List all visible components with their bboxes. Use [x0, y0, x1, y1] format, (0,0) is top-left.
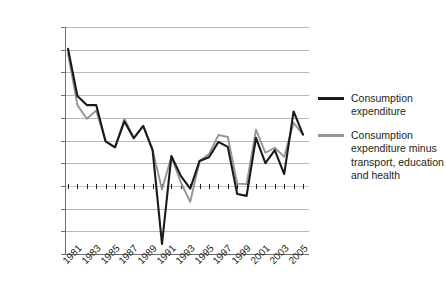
legend-entry: Consumption expenditure minus transport,… — [318, 129, 446, 182]
series-line — [68, 53, 303, 201]
line-chart: 35.00%30.00%25.00%20.00%15.00%10.00%5.00… — [0, 0, 446, 292]
legend-label: Consumption expenditure minus transport,… — [351, 129, 446, 182]
legend-swatch-consumption-expenditure-minus — [318, 134, 344, 137]
chart-legend: Consumption expenditureConsumption expen… — [318, 92, 446, 193]
legend-entry: Consumption expenditure — [318, 92, 446, 118]
legend-label: Consumption expenditure — [351, 92, 446, 118]
series-line — [68, 49, 303, 244]
legend-swatch-consumption-expenditure — [318, 97, 344, 100]
